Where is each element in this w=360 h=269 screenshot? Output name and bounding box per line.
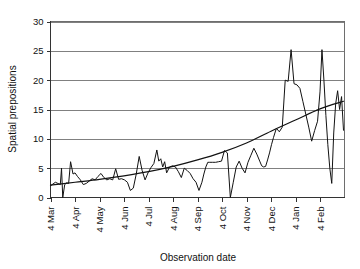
- x-tick-label: 4 Apr: [70, 207, 81, 229]
- x-tick-label: 4 Sep: [192, 207, 203, 232]
- line-chart: 051015202530 4 Mar4 Apr4 May4 Jun4 Jul4 …: [0, 0, 360, 269]
- x-tick-label: 4 Dec: [266, 206, 277, 231]
- x-tick-label: 4 Aug: [168, 207, 179, 231]
- x-tick-label: 4 Jul: [143, 207, 154, 227]
- chart-figure: 051015202530 4 Mar4 Apr4 May4 Jun4 Jul4 …: [0, 0, 360, 269]
- y-tick-label: 5: [38, 163, 43, 174]
- y-tick-label: 20: [33, 75, 44, 86]
- y-tick-label: 10: [33, 133, 44, 144]
- x-tick-label: 4 Jun: [119, 207, 130, 230]
- x-tick-label: 4 Mar: [45, 207, 56, 231]
- x-tick-label: 4 Jan: [290, 207, 301, 230]
- y-tick-label: 25: [33, 45, 44, 56]
- x-axis-title: Observation date: [160, 252, 237, 263]
- y-axis-title: Spatial prepositions: [7, 65, 18, 152]
- x-tick-label: 4 Feb: [315, 207, 326, 231]
- x-tick-label: 4 Nov: [241, 206, 252, 231]
- x-tick-label: 4 May: [94, 206, 105, 232]
- y-tick-label: 30: [33, 16, 44, 27]
- y-tick-label: 15: [33, 104, 44, 115]
- y-tick-label: 0: [38, 192, 43, 203]
- x-tick-label: 4 Oct: [217, 206, 228, 229]
